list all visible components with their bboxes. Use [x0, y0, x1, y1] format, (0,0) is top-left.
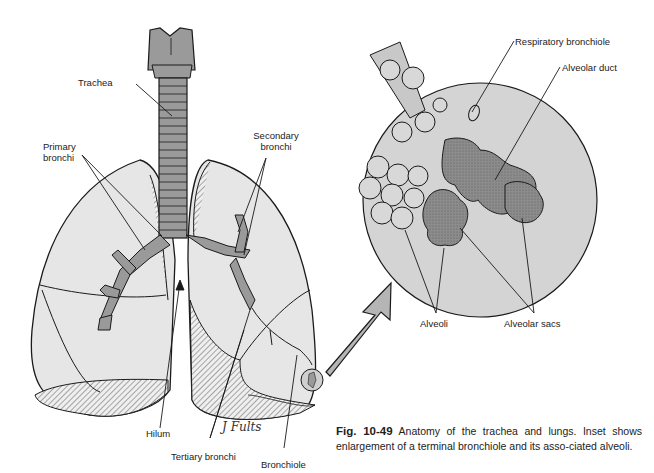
label-secondary-bronchi-1: Secondary: [246, 130, 306, 141]
label-primary-bronchi-1: Primary: [43, 141, 76, 152]
alveoli-inset: [359, 42, 597, 317]
label-primary-bronchi-2: bronchi: [43, 152, 74, 163]
label-hilum: Hilum: [146, 428, 170, 439]
larynx: [148, 28, 195, 78]
label-bronchiole: Bronchiole: [261, 459, 306, 470]
label-secondary-bronchi-2: bronchi: [246, 141, 306, 152]
figure-caption: Fig. 10-49 Anatomy of the trachea and lu…: [336, 424, 642, 453]
lung-anatomy-illustration: [0, 0, 654, 473]
label-trachea: Trachea: [78, 77, 113, 88]
enlargement-arrow: [326, 283, 391, 376]
figure-number: Fig. 10-49: [336, 425, 393, 437]
label-alveoli: Alveoli: [420, 318, 448, 329]
artist-signature: J Fults: [222, 420, 262, 434]
trachea: [159, 78, 187, 238]
label-tertiary-bronchi: Tertiary bronchi: [171, 451, 236, 462]
right-lung: [188, 160, 316, 419]
terminal-bronchiole-circle: [301, 369, 323, 391]
label-respiratory-bronchiole: Respiratory bronchiole: [515, 36, 610, 47]
label-alveolar-sacs: Alveolar sacs: [504, 318, 561, 329]
label-alveolar-duct: Alveolar duct: [562, 62, 617, 73]
